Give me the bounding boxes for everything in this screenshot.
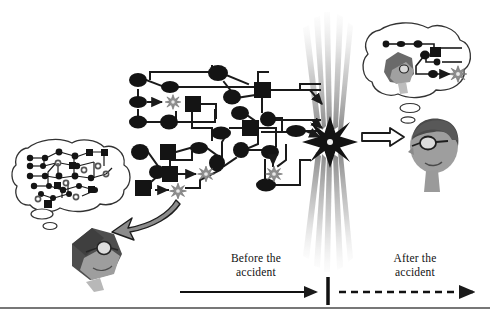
person-before xyxy=(72,228,122,292)
timeline xyxy=(0,277,490,308)
label-after-accident: After the accident xyxy=(360,252,470,279)
thought-bubble-before xyxy=(12,139,130,229)
label-before-accident: Before the accident xyxy=(196,252,316,279)
thought-bubble-after xyxy=(363,23,470,123)
arrow-to-person-after xyxy=(362,128,404,146)
arrow-to-person-before xyxy=(112,200,180,240)
figure-canvas: Before the accident After the accident xyxy=(0,0,490,316)
person-after xyxy=(408,119,458,192)
